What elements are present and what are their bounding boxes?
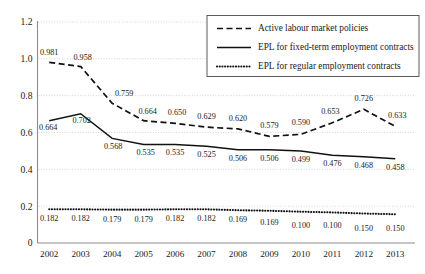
data-point-label: 0.150 bbox=[386, 224, 404, 233]
x-axis-tick-label: 2009 bbox=[260, 249, 279, 259]
legend: Active labour market policiesEPL for fix… bbox=[207, 16, 419, 77]
data-point-label: 0.150 bbox=[355, 224, 373, 233]
data-point-label: 0.182 bbox=[197, 214, 215, 223]
data-point-label: 0.664 bbox=[138, 107, 156, 116]
series-line-1 bbox=[49, 114, 395, 159]
data-point-label: 0.568 bbox=[104, 142, 122, 151]
data-point-label: 0.506 bbox=[260, 154, 278, 163]
data-point-label: 0.468 bbox=[355, 161, 373, 170]
data-point-label: 0.535 bbox=[166, 148, 184, 157]
data-point-label: 0.629 bbox=[197, 112, 215, 121]
data-point-label: 0.179 bbox=[134, 215, 152, 224]
data-point-label: 0.179 bbox=[103, 215, 121, 224]
series-lines-group bbox=[49, 62, 395, 214]
x-axis-tick-label: 2012 bbox=[355, 249, 374, 259]
data-point-label: 0.702 bbox=[72, 116, 90, 125]
data-point-label: 0.476 bbox=[323, 159, 341, 168]
data-point-label: 0.100 bbox=[292, 221, 310, 230]
ytick-labels-group: 00.20.40.60.81.01.2 bbox=[21, 16, 33, 248]
line-chart: 00.20.40.60.81.01.2 20022003200420052006… bbox=[0, 0, 425, 274]
data-point-label: 0.650 bbox=[168, 108, 186, 117]
x-axis-tick-label: 2005 bbox=[134, 249, 153, 259]
y-axis-tick-label: 1.0 bbox=[21, 53, 33, 64]
data-point-label: 0.458 bbox=[386, 163, 404, 172]
data-point-label: 0.182 bbox=[40, 214, 58, 223]
y-axis-tick-label: 0.6 bbox=[21, 127, 33, 138]
data-point-label: 0.499 bbox=[292, 155, 310, 164]
legend-item-label: Active labour market policies bbox=[258, 23, 369, 33]
data-point-label: 0.653 bbox=[321, 107, 339, 116]
data-point-label: 0.958 bbox=[73, 53, 91, 62]
chart-container: 00.20.40.60.81.01.2 20022003200420052006… bbox=[0, 0, 425, 274]
data-point-label: 0.726 bbox=[355, 94, 373, 103]
data-point-label: 0.182 bbox=[166, 214, 184, 223]
x-axis-tick-label: 2011 bbox=[323, 249, 341, 259]
legend-item-label: EPL for regular employment contracts bbox=[258, 61, 401, 71]
data-point-label: 0.981 bbox=[40, 48, 58, 57]
y-axis-tick-label: 0 bbox=[28, 237, 33, 248]
x-axis-tick-label: 2002 bbox=[40, 249, 59, 259]
data-point-label: 0.525 bbox=[197, 150, 215, 159]
x-axis-tick-label: 2008 bbox=[229, 249, 248, 259]
data-point-label: 0.169 bbox=[260, 218, 278, 227]
x-axis-tick-label: 2004 bbox=[103, 249, 122, 259]
series-line-2 bbox=[49, 209, 395, 214]
data-point-label: 0.759 bbox=[115, 89, 133, 98]
xtick-labels-group: 2002200320042005200620072008200920102011… bbox=[40, 249, 405, 259]
x-axis-tick-label: 2006 bbox=[166, 249, 185, 259]
data-point-label: 0.182 bbox=[71, 214, 89, 223]
y-axis-tick-label: 0.8 bbox=[21, 90, 33, 101]
data-point-label: 0.664 bbox=[39, 123, 57, 132]
x-axis-tick-label: 2010 bbox=[292, 249, 311, 259]
data-point-label: 0.590 bbox=[292, 118, 310, 127]
data-point-label: 0.633 bbox=[388, 111, 406, 120]
x-axis-tick-label: 2013 bbox=[386, 249, 405, 259]
data-point-label: 0.535 bbox=[136, 148, 154, 157]
y-axis-tick-label: 1.2 bbox=[21, 16, 33, 27]
data-point-label: 0.169 bbox=[229, 215, 247, 224]
x-axis-tick-label: 2003 bbox=[72, 249, 91, 259]
data-point-label: 0.506 bbox=[229, 154, 247, 163]
legend-item-label: EPL for fixed-term employment contracts bbox=[258, 42, 414, 52]
data-point-label: 0.100 bbox=[323, 221, 341, 230]
x-axis-tick-label: 2007 bbox=[197, 249, 216, 259]
data-point-label: 0.620 bbox=[229, 114, 247, 123]
data-point-label: 0.579 bbox=[260, 121, 278, 130]
y-axis-tick-label: 0.2 bbox=[21, 201, 33, 212]
y-axis-tick-label: 0.4 bbox=[21, 164, 33, 175]
